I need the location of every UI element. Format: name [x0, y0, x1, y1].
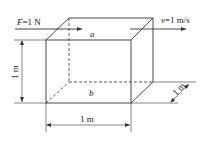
bottom-plate-label: b [89, 88, 94, 98]
width-label: 1 m [80, 114, 94, 124]
box-back-face [69, 18, 153, 82]
box-depth-edges [46, 18, 153, 103]
depth-dimension [131, 82, 196, 103]
diagram-canvas: F=1 N v=1 m/s a b 1 m 1 m 1 m [0, 0, 211, 142]
force-label: F=1 N [16, 17, 41, 27]
top-plate-label: a [90, 29, 95, 39]
velocity-label: v=1 m/s [161, 15, 190, 25]
depth-label: 1 m [170, 81, 187, 98]
height-label: 1 m [10, 65, 20, 79]
